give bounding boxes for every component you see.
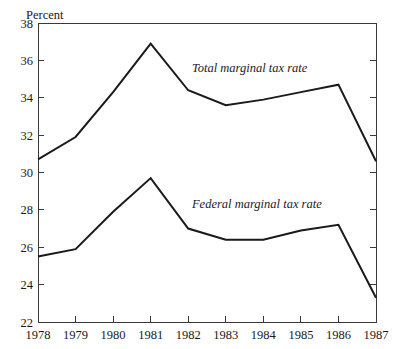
series-label-total-marginal-tax-rate: Total marginal tax rate [192,61,308,75]
x-axis-tick-label: 1980 [101,328,126,342]
y-axis-tick-label: 34 [21,91,34,105]
x-axis-tick-label: 1986 [326,328,351,342]
x-axis-tick-label: 1983 [213,328,238,342]
x-axis-tick-label: 1984 [251,328,277,342]
chart-background [0,0,394,349]
y-axis-tick-label: 32 [21,129,34,143]
x-axis-tick-label: 1981 [138,328,163,342]
y-axis-tick-label: 28 [21,203,34,217]
x-axis-tick-label: 1987 [364,328,389,342]
x-axis-tick-label: 1979 [63,328,88,342]
y-axis-tick-label: 38 [21,17,34,31]
line-chart: Percent 222426283032343638 1978197919801… [0,0,394,349]
x-axis-tick-label: 1985 [288,328,313,342]
y-axis-label-group: 222426283032343638 [21,17,34,330]
x-axis-tick-label: 1982 [176,328,201,342]
x-axis-tick-label: 1978 [26,328,51,342]
series-label-federal-marginal-tax-rate: Federal marginal tax rate [191,197,322,211]
y-axis-tick-label: 24 [21,278,34,292]
y-axis-tick-label: 26 [21,241,34,255]
chart-container: Percent 222426283032343638 1978197919801… [0,0,394,349]
y-axis-tick-label: 36 [21,54,34,68]
y-axis-tick-label: 30 [21,166,34,180]
